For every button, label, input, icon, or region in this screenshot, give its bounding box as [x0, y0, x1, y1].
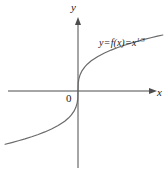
function-equation-label: y = f(x) = x1/3: [99, 38, 145, 48]
equation-function-notation: f(x): [111, 37, 125, 48]
graph-canvas: [0, 0, 168, 171]
y-axis-arrowhead: [75, 17, 81, 25]
y-axis-label: y: [71, 2, 76, 13]
cube-root-function-figure: y x 0 y = f(x) = x1/3: [0, 0, 168, 171]
origin-label: 0: [66, 93, 72, 104]
x-axis-arrowhead: [149, 88, 157, 94]
cube-root-curve: [5, 35, 163, 144]
equation-exponent: 1/3: [136, 36, 144, 43]
x-axis-label: x: [157, 87, 162, 98]
